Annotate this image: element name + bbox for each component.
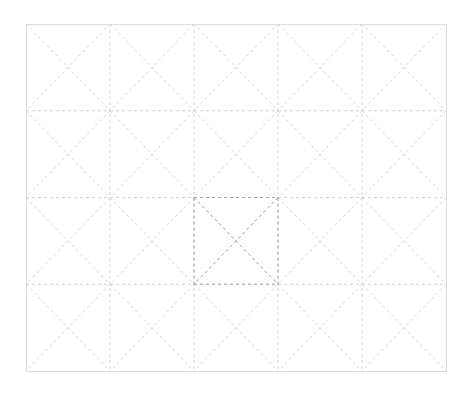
highlighted-cell — [194, 198, 278, 285]
grid-canvas — [0, 0, 469, 395]
dashed-grid-diagram — [0, 0, 469, 395]
